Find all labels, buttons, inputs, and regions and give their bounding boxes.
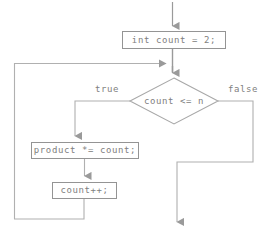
edge-label-true: true bbox=[95, 85, 119, 94]
edge-label-false: false bbox=[228, 85, 258, 94]
condition-label: count <= n bbox=[134, 97, 214, 106]
flowchart-canvas: int count = 2; count <= n true false pro… bbox=[0, 0, 276, 232]
statement-box-init[interactable]: int count = 2; bbox=[122, 31, 226, 49]
statement-box-product[interactable]: product *= count; bbox=[31, 142, 139, 159]
edge-true-branch bbox=[75, 101, 130, 136]
edge-false-branch bbox=[177, 101, 253, 222]
statement-box-increment[interactable]: count++; bbox=[52, 182, 117, 199]
